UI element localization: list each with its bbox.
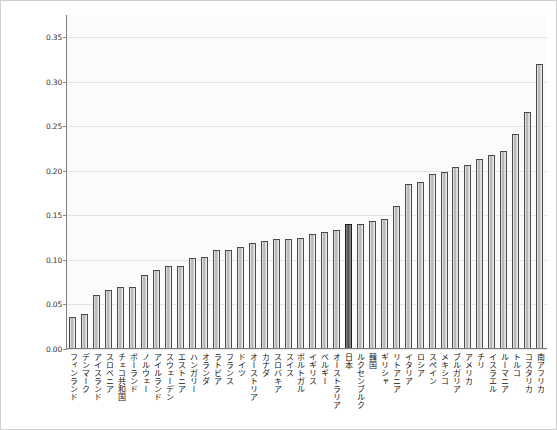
bar[interactable]	[81, 314, 88, 348]
bar[interactable]	[69, 317, 76, 348]
bar-slot[interactable]	[462, 15, 474, 348]
bar-slot[interactable]	[282, 15, 294, 348]
bar-slot[interactable]	[318, 15, 330, 348]
bar-slot[interactable]	[450, 15, 462, 348]
bar-slot[interactable]	[151, 15, 163, 348]
bar-slot[interactable]	[187, 15, 199, 348]
bar[interactable]	[105, 290, 112, 348]
bar-slot[interactable]	[510, 15, 522, 348]
bar[interactable]	[417, 182, 424, 348]
bar[interactable]	[201, 257, 208, 348]
bar[interactable]	[512, 134, 519, 348]
bar[interactable]	[285, 239, 292, 348]
bar-slot[interactable]	[91, 15, 103, 348]
bar-slot[interactable]	[223, 15, 235, 348]
bar-slot[interactable]	[139, 15, 151, 348]
bar[interactable]	[393, 206, 400, 348]
x-label-slot: イタリア	[402, 353, 414, 429]
bar-slot[interactable]	[402, 15, 414, 348]
bar[interactable]	[464, 165, 471, 348]
x-axis-labels: フィンランドデンマークアイスランドスロベニアチェコ共和国ポーランドノルウェーアイ…	[67, 353, 546, 429]
x-label-slot: 日本	[342, 353, 354, 429]
x-label-slot: トルコ	[510, 353, 522, 429]
bar[interactable]	[225, 250, 232, 348]
bar-slot[interactable]	[390, 15, 402, 348]
bar[interactable]	[476, 159, 483, 348]
bar-slot[interactable]	[199, 15, 211, 348]
bar-slot[interactable]	[79, 15, 91, 348]
bar[interactable]	[452, 167, 459, 348]
bar[interactable]	[333, 230, 340, 348]
bar-slot[interactable]	[127, 15, 139, 348]
x-tick-label: スロベニア	[104, 353, 113, 393]
bar[interactable]	[524, 112, 531, 348]
bar-slot[interactable]	[103, 15, 115, 348]
bar[interactable]	[536, 64, 543, 348]
x-label-slot: フランス	[223, 353, 235, 429]
bar[interactable]	[273, 239, 280, 348]
bar[interactable]	[357, 224, 364, 348]
bar[interactable]	[141, 275, 148, 348]
bar-slot[interactable]	[354, 15, 366, 348]
bar[interactable]	[429, 174, 436, 348]
x-tick-label: ロシア	[415, 353, 424, 377]
bar-slot[interactable]	[259, 15, 271, 348]
bar-slot[interactable]	[486, 15, 498, 348]
bar-slot[interactable]	[474, 15, 486, 348]
bar-slot[interactable]	[330, 15, 342, 348]
bar[interactable]	[321, 232, 328, 348]
x-tick-label: チェコ共和国	[116, 353, 125, 401]
bar[interactable]	[213, 250, 220, 348]
bar-slot[interactable]	[498, 15, 510, 348]
x-label-slot: ブルガリア	[450, 353, 462, 429]
bar[interactable]	[405, 184, 412, 348]
x-label-slot: フィンランド	[67, 353, 79, 429]
bar[interactable]	[297, 238, 304, 348]
bar-slot[interactable]	[175, 15, 187, 348]
x-label-slot: ハンガリー	[187, 353, 199, 429]
x-label-slot: オランダ	[199, 353, 211, 429]
bar-slot[interactable]	[235, 15, 247, 348]
bar-slot[interactable]	[67, 15, 79, 348]
bar-slot[interactable]	[270, 15, 282, 348]
bar-slot[interactable]	[378, 15, 390, 348]
y-tick-label: 0.35	[46, 33, 62, 42]
bar[interactable]	[381, 219, 388, 348]
bar[interactable]	[165, 266, 172, 348]
bar[interactable]	[369, 221, 376, 348]
bar-slot[interactable]	[247, 15, 259, 348]
bar-slot[interactable]	[211, 15, 223, 348]
x-label-slot: カナダ	[259, 353, 271, 429]
bar-slot[interactable]	[438, 15, 450, 348]
bar[interactable]	[153, 270, 160, 348]
bar[interactable]	[129, 287, 136, 348]
bar[interactable]	[309, 234, 316, 348]
bar[interactable]	[93, 295, 100, 348]
bar[interactable]	[189, 258, 196, 348]
bar[interactable]	[488, 155, 495, 348]
bar-slot[interactable]	[534, 15, 546, 348]
bar[interactable]	[261, 241, 268, 348]
bar-slot[interactable]	[414, 15, 426, 348]
bar-slot[interactable]	[342, 15, 354, 348]
bar-slot[interactable]	[294, 15, 306, 348]
bar-slot[interactable]	[522, 15, 534, 348]
bar[interactable]	[237, 247, 244, 348]
bar[interactable]	[441, 172, 448, 348]
x-tick-label: 韓国	[368, 353, 377, 369]
gridline	[67, 349, 547, 350]
bar-slot[interactable]	[115, 15, 127, 348]
y-tick-label: 0.05	[46, 300, 62, 309]
bar[interactable]	[249, 243, 256, 348]
bar-slot[interactable]	[163, 15, 175, 348]
bar[interactable]	[117, 287, 124, 348]
x-tick-label: ハンガリー	[188, 353, 197, 393]
x-label-slot: スペイン	[426, 353, 438, 429]
bar-slot[interactable]	[426, 15, 438, 348]
bar-slot[interactable]	[366, 15, 378, 348]
bar-highlighted[interactable]	[345, 224, 352, 348]
bar-slot[interactable]	[306, 15, 318, 348]
bar[interactable]	[500, 151, 507, 348]
bar[interactable]	[177, 266, 184, 348]
x-tick-label: ルーマニア	[499, 353, 508, 393]
